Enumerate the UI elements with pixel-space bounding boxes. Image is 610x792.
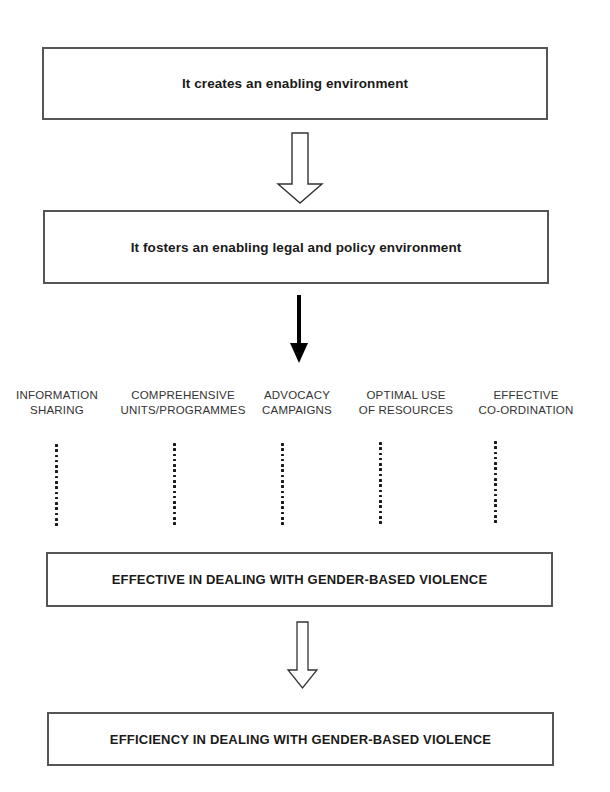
box-label: It fosters an enabling legal and policy … — [131, 240, 462, 255]
dotted-line-icon — [494, 441, 497, 526]
box-label: It creates an enabling environment — [182, 76, 408, 91]
label-line: OF RESOURCES — [359, 403, 453, 418]
label-line: COMPREHENSIVE — [120, 388, 245, 403]
box-label: EFFICIENCY IN DEALING WITH GENDER-BASED … — [110, 732, 491, 747]
label-line: SHARING — [16, 403, 98, 418]
label-line: EFFECTIVE — [478, 388, 573, 403]
label-line: INFORMATION — [16, 388, 98, 403]
flow-box-effective: EFFECTIVE IN DEALING WITH GENDER-BASED V… — [46, 552, 553, 607]
box-label: EFFECTIVE IN DEALING WITH GENDER-BASED V… — [112, 572, 488, 587]
component-effective-coordination: EFFECTIVE CO-ORDINATION — [478, 388, 573, 418]
hollow-down-arrow-icon — [286, 621, 326, 691]
component-advocacy-campaigns: ADVOCACY CAMPAIGNS — [262, 388, 332, 418]
component-optimal-use-resources: OPTIMAL USE OF RESOURCES — [359, 388, 453, 418]
dotted-line-icon — [281, 443, 284, 528]
solid-down-arrow-icon — [286, 295, 316, 365]
component-comprehensive-units: COMPREHENSIVE UNITS/PROGRAMMES — [120, 388, 245, 418]
flow-box-enabling-environment: It creates an enabling environment — [42, 47, 548, 120]
flow-box-efficiency: EFFICIENCY IN DEALING WITH GENDER-BASED … — [47, 712, 554, 766]
label-line: UNITS/PROGRAMMES — [120, 403, 245, 418]
label-line: OPTIMAL USE — [359, 388, 453, 403]
flow-box-legal-policy-environment: It fosters an enabling legal and policy … — [43, 210, 549, 284]
label-line: ADVOCACY — [262, 388, 332, 403]
label-line: CAMPAIGNS — [262, 403, 332, 418]
dotted-line-icon — [379, 442, 382, 527]
component-information-sharing: INFORMATION SHARING — [16, 388, 98, 418]
dotted-line-icon — [173, 443, 176, 528]
dotted-line-icon — [55, 444, 58, 529]
hollow-down-arrow-icon — [270, 132, 330, 204]
label-line: CO-ORDINATION — [478, 403, 573, 418]
